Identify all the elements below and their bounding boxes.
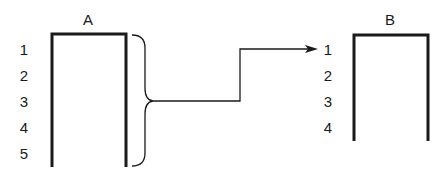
connector-arrow (153, 45, 318, 101)
stack-b: B 1 2 3 4 (324, 11, 428, 141)
stack-b-outline (354, 35, 428, 141)
stack-a: A 1 2 3 4 5 (20, 11, 126, 167)
stack-a-outline (52, 34, 126, 167)
brace-icon (132, 35, 153, 166)
stack-a-row-5: 5 (20, 145, 28, 162)
stack-a-row-4: 4 (20, 119, 28, 136)
stack-a-row-3: 3 (20, 93, 28, 110)
stack-b-row-1: 1 (324, 41, 332, 58)
stack-b-row-2: 2 (324, 67, 332, 84)
stack-a-row-1: 1 (20, 41, 28, 58)
stack-b-label: B (385, 11, 395, 28)
stack-b-row-4: 4 (324, 119, 332, 136)
stack-b-row-3: 3 (324, 93, 332, 110)
stack-a-label: A (83, 11, 93, 28)
diagram-canvas: A 1 2 3 4 5 B 1 2 3 4 (0, 0, 446, 174)
stack-a-row-2: 2 (20, 67, 28, 84)
